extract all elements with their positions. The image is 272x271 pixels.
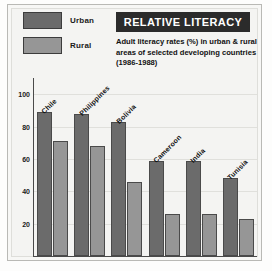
legend-label-rural: Rural <box>70 41 91 50</box>
gridline <box>34 127 257 128</box>
gridline <box>34 94 257 95</box>
bar-india-rural <box>202 214 217 256</box>
bar-chile-urban <box>37 112 52 256</box>
y-axis-tick-label: 80 <box>22 123 30 130</box>
y-axis-tick-label: 40 <box>22 188 30 195</box>
y-axis-tick-label: 60 <box>22 155 30 162</box>
bar-cameroon-rural <box>165 214 180 256</box>
legend-item-rural: Rural <box>23 37 91 54</box>
bar-india-urban <box>186 161 201 256</box>
bar-chile-rural <box>53 141 68 256</box>
title-banner: RELATIVE LITERACY <box>116 12 250 32</box>
bar-bolivia-rural <box>127 182 142 256</box>
legend-item-urban: Urban <box>23 12 94 29</box>
plot-area: 20406080100ChilePhilippinesBoliviaCamero… <box>33 78 257 257</box>
bar-philippines-urban <box>74 114 89 256</box>
chart-page: Urban Rural RELATIVE LITERACY Adult lite… <box>0 0 272 271</box>
y-axis-tick-label: 100 <box>18 91 30 98</box>
chart-subtitle: Adult literacy rates (%) in urban & rura… <box>116 37 258 69</box>
bar-philippines-rural <box>90 146 105 256</box>
bar-tunisia-rural <box>239 219 254 256</box>
bar-bolivia-urban <box>111 122 126 256</box>
bar-cameroon-urban <box>149 161 164 256</box>
chart-title: RELATIVE LITERACY <box>124 16 242 28</box>
x-axis-label-philippines: Philippines <box>78 84 111 117</box>
legend-swatch-urban <box>23 12 62 29</box>
legend-swatch-rural <box>23 37 62 54</box>
bar-tunisia-urban <box>223 178 238 256</box>
legend-label-urban: Urban <box>70 16 94 25</box>
y-axis-tick-label: 20 <box>22 220 30 227</box>
